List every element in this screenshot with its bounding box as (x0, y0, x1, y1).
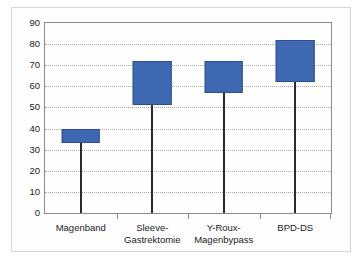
range-bar (133, 61, 172, 105)
x-category-label: Sleeve-Gastrektomie (124, 222, 181, 246)
x-category-label: BPD-DS (277, 222, 313, 234)
y-tick-label-20: 20 (29, 166, 40, 176)
x-tick (117, 213, 118, 219)
range-bar (204, 61, 243, 93)
x-label-line: BPD-DS (277, 222, 313, 234)
x-label-line: Magenbypass (194, 234, 253, 246)
x-category-label: Y-Roux-Magenbypass (194, 222, 253, 246)
x-tick (330, 213, 331, 219)
x-tick (260, 213, 261, 219)
plot-area: 0102030405060708090 MagenbandSleeve-Gast… (44, 22, 332, 214)
y-tick-label-60: 60 (29, 82, 40, 92)
y-tick-label-70: 70 (29, 60, 40, 70)
gridline-10 (45, 192, 331, 193)
x-label-line: Y-Roux- (194, 222, 253, 234)
y-tick-label-0: 0 (35, 208, 40, 218)
gridline-30 (45, 150, 331, 151)
range-bar (61, 129, 100, 144)
x-label-line: Sleeve- (124, 222, 181, 234)
gridline-50 (45, 107, 331, 108)
x-label-line: Gastrektomie (124, 234, 181, 246)
chart-figure: 0102030405060708090 MagenbandSleeve-Gast… (0, 0, 362, 266)
x-label-line: Magenband (56, 222, 106, 234)
x-category-label: Magenband (56, 222, 106, 234)
y-tick-label-40: 40 (29, 124, 40, 134)
y-tick-label-90: 90 (29, 18, 40, 28)
range-bar (276, 40, 315, 82)
x-tick (188, 213, 189, 219)
y-tick-label-30: 30 (29, 145, 40, 155)
gridline-20 (45, 171, 331, 172)
gridline-60 (45, 86, 331, 87)
y-tick-label-50: 50 (29, 103, 40, 113)
y-tick-label-10: 10 (29, 187, 40, 197)
y-tick-label-80: 80 (29, 39, 40, 49)
